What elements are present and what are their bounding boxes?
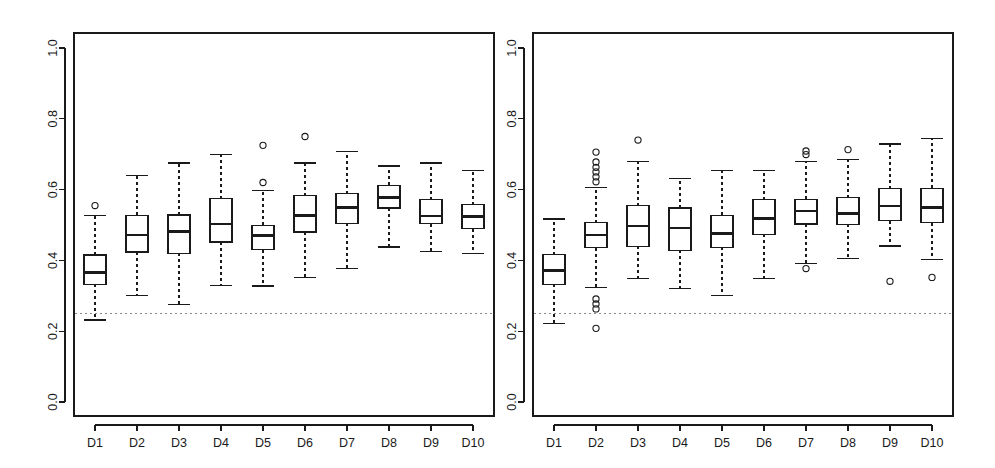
x-tick-label: D5 (714, 436, 730, 450)
x-tick-label: D2 (129, 436, 145, 450)
x-tick-label: D3 (630, 436, 646, 450)
outlier-point (845, 146, 851, 152)
boxplot-D5[interactable] (252, 142, 275, 286)
box-iqr[interactable] (837, 198, 859, 225)
boxplot-figure: 0.00.20.40.60.81.0D1D2D3D4D5D6D7D8D9D100… (0, 0, 995, 468)
boxplot-D9[interactable] (879, 144, 902, 284)
x-tick-label: D10 (462, 436, 485, 450)
boxplot-D10[interactable] (462, 171, 485, 253)
x-tick-label: D8 (381, 436, 397, 450)
boxplot-D9[interactable] (420, 163, 443, 252)
outlier-point (635, 137, 641, 143)
x-tick-label: D4 (672, 436, 688, 450)
x-tick-label: D8 (840, 436, 856, 450)
box-iqr[interactable] (168, 215, 190, 253)
outlier-point (260, 179, 266, 185)
panel-left: 0.00.20.40.60.81.0D1D2D3D4D5D6D7D8D9D10 (46, 33, 494, 450)
boxplot-D8[interactable] (837, 146, 860, 258)
outlier-point (929, 274, 935, 280)
outlier-point (887, 278, 893, 284)
x-tick-label: D9 (882, 436, 898, 450)
outlier-point (260, 142, 266, 148)
box-iqr[interactable] (711, 215, 733, 247)
x-tick-label: D5 (255, 436, 271, 450)
boxplot-D10[interactable] (921, 138, 944, 280)
boxplot-D1[interactable] (84, 202, 107, 319)
box-iqr[interactable] (210, 199, 232, 242)
y-tick-label: 0.6 (505, 181, 519, 198)
box-iqr[interactable] (921, 188, 943, 223)
box-iqr[interactable] (420, 200, 442, 224)
y-tick-label: 0.0 (46, 393, 60, 410)
y-tick-label: 0.2 (46, 322, 60, 339)
x-tick-label: D3 (171, 436, 187, 450)
x-tick-label: D7 (798, 436, 814, 450)
x-tick-label: D10 (921, 436, 944, 450)
boxplot-D2[interactable] (126, 175, 149, 295)
y-tick-label: 0.0 (505, 393, 519, 410)
boxplot-D8[interactable] (378, 166, 401, 247)
x-tick-label: D1 (87, 436, 103, 450)
y-tick-label: 0.4 (505, 252, 519, 269)
outlier-point (302, 133, 308, 139)
x-tick-label: D4 (213, 436, 229, 450)
boxplot-D5[interactable] (711, 170, 734, 295)
boxplot-D4[interactable] (669, 178, 692, 288)
boxplot-D7[interactable] (336, 152, 359, 268)
boxplot-D6[interactable] (294, 133, 317, 277)
x-tick-label: D1 (546, 436, 562, 450)
x-tick-label: D6 (756, 436, 772, 450)
x-tick-label: D7 (339, 436, 355, 450)
x-tick-label: D2 (588, 436, 604, 450)
box-iqr[interactable] (753, 200, 775, 234)
y-tick-label: 1.0 (46, 39, 60, 56)
outlier-point (803, 265, 809, 271)
boxplot-D4[interactable] (210, 154, 233, 285)
boxplot-svg: 0.00.20.40.60.81.0D1D2D3D4D5D6D7D8D9D100… (0, 0, 995, 468)
panel-right: 0.00.20.40.60.81.0D1D2D3D4D5D6D7D8D9D10 (505, 33, 953, 450)
outlier-point (593, 325, 599, 331)
y-tick-label: 0.4 (46, 252, 60, 269)
boxplot-D6[interactable] (753, 170, 776, 278)
y-tick-label: 1.0 (505, 39, 519, 56)
x-tick-label: D6 (297, 436, 313, 450)
box-iqr[interactable] (84, 255, 106, 284)
outlier-point (593, 149, 599, 155)
y-tick-label: 0.6 (46, 181, 60, 198)
y-tick-label: 0.8 (46, 110, 60, 127)
boxplot-D7[interactable] (795, 148, 818, 272)
boxplot-D2[interactable] (585, 149, 608, 331)
y-tick-label: 0.8 (505, 110, 519, 127)
boxplot-D1[interactable] (543, 219, 566, 323)
box-iqr[interactable] (252, 225, 274, 249)
boxplot-D3[interactable] (168, 163, 191, 304)
x-tick-label: D9 (423, 436, 439, 450)
box-iqr[interactable] (126, 215, 148, 251)
y-tick-label: 0.2 (505, 322, 519, 339)
outlier-point (92, 202, 98, 208)
boxplot-D3[interactable] (627, 137, 650, 279)
box-iqr[interactable] (294, 196, 316, 232)
